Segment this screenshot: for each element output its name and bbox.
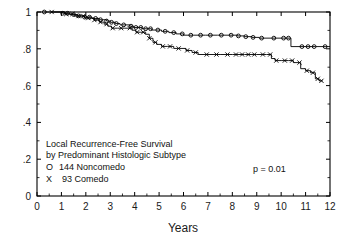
x-tick-label: 5: [156, 201, 162, 212]
x-tick-label: 2: [83, 201, 89, 212]
x-tick-label: 9: [254, 201, 260, 212]
y-tick-label: 1: [25, 7, 31, 18]
x-tick-label: 6: [181, 201, 187, 212]
series-line: [52, 12, 323, 81]
data-series: [42, 10, 330, 83]
legend-noncomedo-label: 144 Noncomedo: [59, 162, 125, 172]
series-comedo: [50, 10, 324, 83]
x-tick-label: 7: [205, 201, 211, 212]
survival-curve-chart: 0123456789101112 0.2.4.6.81 Years Local …: [0, 0, 344, 238]
y-tick-label: .8: [23, 44, 32, 55]
x-tick-label: 8: [230, 201, 236, 212]
legend-noncomedo-symbol: O: [46, 162, 53, 172]
x-tick-label: 11: [300, 201, 311, 212]
legend-comedo-symbol: X: [46, 174, 52, 184]
legend-title-line1: Local Recurrence-Free Survival: [46, 139, 173, 149]
p-value-annotation: p = 0.01: [253, 164, 286, 174]
series-noncomedo: [42, 10, 330, 48]
x-tick-label: 12: [324, 201, 336, 212]
chart-legend: Local Recurrence-Free Survival by Predom…: [46, 139, 186, 184]
x-tick-label: 1: [59, 201, 65, 212]
x-axis-title: Years: [168, 221, 198, 235]
y-tick-label: 0: [25, 191, 31, 202]
x-tick-label: 10: [276, 201, 288, 212]
x-axis-tick-labels: 0123456789101112: [34, 201, 336, 212]
legend-comedo-label: 93 Comedo: [62, 174, 109, 184]
x-tick-label: 0: [34, 201, 40, 212]
y-tick-label: .4: [23, 117, 32, 128]
figure-root: 0123456789101112 0.2.4.6.81 Years Local …: [0, 0, 344, 238]
x-tick-label: 4: [132, 201, 138, 212]
y-tick-label: .2: [23, 154, 32, 165]
y-axis-tick-labels: 0.2.4.6.81: [23, 7, 32, 202]
x-tick-label: 3: [107, 201, 113, 212]
legend-title-line2: by Predominant Histologic Subtype: [46, 150, 186, 160]
y-tick-label: .6: [23, 81, 32, 92]
